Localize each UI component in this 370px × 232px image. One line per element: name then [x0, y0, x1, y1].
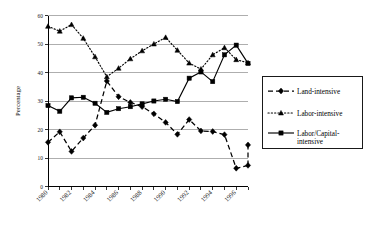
y-axis-ticks: 0102030405060: [38, 13, 48, 190]
legend-swatch-marker-labor-capital-point-0: [279, 131, 283, 135]
series-labor-capital-intensive-point-11: [175, 99, 179, 103]
y-axis-title: Percentage: [14, 86, 21, 116]
series-labor-capital-intensive-point-14: [211, 80, 215, 84]
series-labor-capital-intensive-point-16: [234, 43, 238, 47]
legend-label-labor-capital: Labor/Capital-: [297, 130, 340, 138]
series-labor-capital-intensive-point-17: [246, 61, 250, 65]
line-chart: 0102030405060198019821984198619881990199…: [0, 0, 370, 232]
y-tick-label-50: 50: [38, 41, 44, 47]
legend: Land-intensiveLabor-intensiveLabor/Capit…: [262, 76, 362, 148]
y-tick-label-30: 30: [38, 98, 44, 104]
series-labor-capital-intensive-point-13: [199, 70, 203, 74]
series-labor-capital-intensive-point-8: [140, 102, 144, 106]
y-tick-label-20: 20: [38, 127, 44, 133]
legend-label-labor-capital-intensive-line2: intensive: [297, 138, 323, 146]
series-labor-capital-intensive-point-12: [187, 76, 191, 80]
x-tick-label-1992: 1992: [176, 189, 190, 203]
y-tick-label-40: 40: [38, 70, 44, 76]
y-tick-label-10: 10: [38, 155, 44, 161]
x-tick-label-1988: 1988: [129, 188, 144, 203]
series-labor-capital-intensive-point-2: [69, 96, 73, 100]
series-labor-capital-intensive-point-1: [58, 109, 62, 113]
x-tick-label-1990: 1990: [152, 188, 167, 203]
series-labor-capital-intensive-point-0: [46, 103, 50, 107]
x-tick-label-1986: 1986: [105, 188, 120, 203]
x-tick-label-1984: 1984: [81, 188, 96, 203]
series-labor-capital-intensive-point-9: [152, 99, 156, 103]
x-tick-label-1996: 1996: [223, 188, 238, 203]
legend-label-land-intensive: Land-intensive: [297, 88, 340, 96]
series-labor-capital-intensive-point-3: [81, 95, 85, 99]
x-axis-labels: 198019821984198619881990199219941996: [34, 188, 237, 203]
series-labor-capital-intensive-point-10: [164, 97, 168, 101]
series-labor-capital-intensive-point-7: [128, 105, 132, 109]
y-tick-label-60: 60: [38, 13, 44, 19]
series-labor-capital-intensive-point-4: [93, 101, 97, 105]
x-tick-label-1980: 1980: [34, 188, 49, 203]
series-labor-capital-intensive-point-5: [105, 110, 109, 114]
series-labor-capital-intensive-point-6: [116, 107, 120, 111]
x-tick-label-1994: 1994: [199, 188, 214, 203]
legend-label-labor-intensive: Labor-intensive: [297, 110, 342, 118]
x-tick-label-1982: 1982: [58, 189, 72, 203]
series-labor-capital-intensive-point-15: [222, 53, 226, 57]
chart-figure: 0102030405060198019821984198619881990199…: [0, 0, 370, 232]
